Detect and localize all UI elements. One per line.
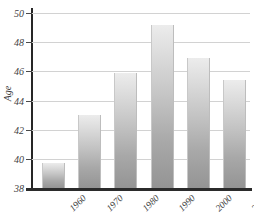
y-tick-mark bbox=[26, 71, 32, 72]
x-tick-label: 1980 bbox=[140, 193, 161, 214]
y-gridline bbox=[32, 13, 250, 14]
y-tick-label: 48 bbox=[14, 37, 24, 48]
y-tick-label: 42 bbox=[14, 124, 24, 135]
bar bbox=[78, 115, 101, 188]
bar bbox=[114, 73, 137, 188]
y-tick-mark bbox=[26, 101, 32, 102]
x-tick-label: 1960 bbox=[68, 193, 89, 214]
plot-area: 38404244464850 bbox=[32, 13, 250, 188]
bar bbox=[187, 58, 210, 188]
y-tick-label: 50 bbox=[14, 8, 24, 19]
bar bbox=[151, 25, 174, 188]
x-tick-label: 2000 bbox=[213, 193, 234, 214]
y-tick-label: 46 bbox=[14, 66, 24, 77]
y-tick-label: 40 bbox=[14, 153, 24, 164]
bar bbox=[42, 163, 65, 188]
x-axis-line bbox=[26, 188, 252, 191]
y-tick-mark bbox=[26, 159, 32, 160]
bar bbox=[223, 80, 246, 188]
x-tick-label: 1970 bbox=[104, 193, 125, 214]
y-axis-title: Age bbox=[2, 74, 13, 114]
y-gridline bbox=[32, 130, 250, 131]
y-tick-mark bbox=[26, 42, 32, 43]
y-tick-mark bbox=[26, 13, 32, 14]
y-tick-label: 44 bbox=[14, 95, 24, 106]
y-gridline bbox=[32, 71, 250, 72]
y-gridline bbox=[32, 42, 250, 43]
y-gridline bbox=[32, 159, 250, 160]
bar-chart: Age 38404244464850 196019701980199020002… bbox=[0, 0, 254, 222]
y-tick-label: 38 bbox=[14, 183, 24, 194]
y-gridline bbox=[32, 101, 250, 102]
y-tick-mark bbox=[26, 130, 32, 131]
x-tick-label: 1990 bbox=[177, 193, 198, 214]
x-tick-label: 2002 bbox=[249, 193, 254, 214]
